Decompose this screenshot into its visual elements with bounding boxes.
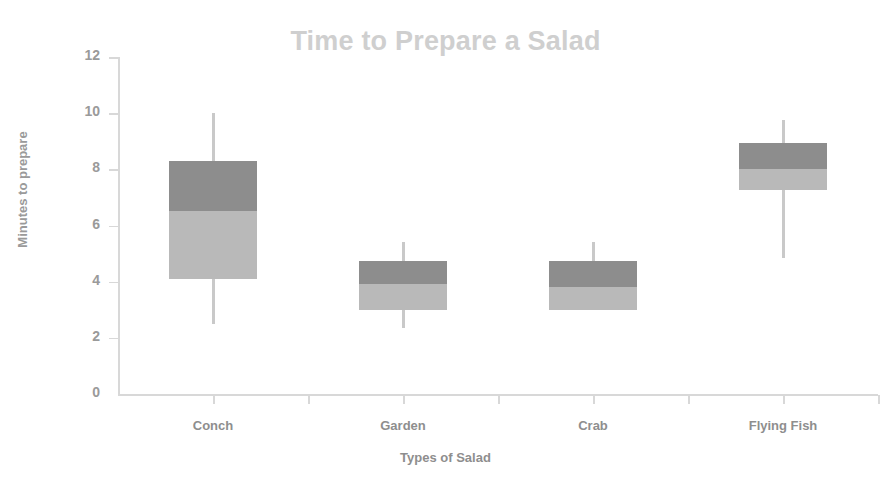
whisker-upper-flying-fish — [782, 120, 785, 142]
whisker-upper-crab — [592, 242, 595, 260]
y-tick-label-8: 8 — [60, 159, 100, 175]
box-upper-crab — [549, 261, 637, 288]
y-tick-mark — [109, 226, 118, 228]
y-tick-mark — [109, 57, 118, 59]
x-tick-mark — [878, 395, 880, 404]
box-lower-conch — [169, 211, 257, 278]
box-upper-flying-fish — [739, 143, 827, 170]
x-tick-mark — [783, 395, 785, 404]
y-tick-mark — [109, 113, 118, 115]
whisker-upper-conch — [212, 113, 215, 161]
x-tick-label-conch: Conch — [133, 418, 293, 433]
x-tick-mark — [403, 395, 405, 404]
x-tick-mark — [498, 395, 500, 404]
y-tick-mark — [109, 338, 118, 340]
y-tick-mark — [109, 282, 118, 284]
box-lower-garden — [359, 284, 447, 309]
y-tick-label-12: 12 — [60, 47, 100, 63]
x-tick-mark — [308, 395, 310, 404]
x-tick-label-flying-fish: Flying Fish — [703, 418, 863, 433]
y-tick-label-10: 10 — [60, 103, 100, 119]
y-axis-line — [118, 57, 120, 394]
box-upper-conch — [169, 161, 257, 212]
whisker-upper-garden — [402, 242, 405, 260]
box-plot-chart: Time to Prepare a Salad Minutes to prepa… — [0, 0, 891, 484]
box-lower-flying-fish — [739, 169, 827, 190]
plot-area: 024681012ConchGardenCrabFlying Fish — [0, 0, 891, 484]
x-tick-mark — [593, 395, 595, 404]
x-tick-mark — [688, 395, 690, 404]
y-tick-label-4: 4 — [60, 272, 100, 288]
y-tick-mark — [109, 169, 118, 171]
x-tick-label-crab: Crab — [513, 418, 673, 433]
whisker-lower-flying-fish — [782, 190, 785, 257]
x-tick-mark — [213, 395, 215, 404]
x-tick-label-garden: Garden — [323, 418, 483, 433]
y-tick-label-2: 2 — [60, 328, 100, 344]
y-tick-label-6: 6 — [60, 216, 100, 232]
box-lower-crab — [549, 287, 637, 309]
whisker-lower-conch — [212, 279, 215, 324]
box-upper-garden — [359, 261, 447, 285]
whisker-lower-garden — [402, 310, 405, 328]
y-tick-label-0: 0 — [60, 384, 100, 400]
